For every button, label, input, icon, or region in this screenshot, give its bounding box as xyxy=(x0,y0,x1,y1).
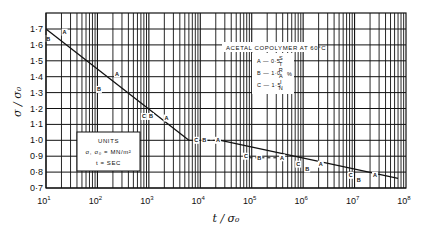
data-marker-a: A xyxy=(319,161,323,167)
legend-title: ACETAL COPOLYMER AT 60°C xyxy=(226,45,326,51)
legend-unit: % xyxy=(287,71,292,77)
y-tick-label: 1·3 xyxy=(30,88,43,98)
x-tick-label: 107 xyxy=(346,195,360,206)
units-stress: σ, σ₀ = MN/m² xyxy=(86,149,132,155)
data-marker-c: C xyxy=(349,172,353,178)
y-tick-label: 1·5 xyxy=(30,56,43,66)
y-tick-label: 1·2 xyxy=(30,104,43,114)
units-time: t = SEC xyxy=(96,160,121,166)
creep-master-curve-chart: AAAAAAABBBBBBBCCCCC 1·71·61·51·41·31·21·… xyxy=(0,0,432,234)
y-tick-label: 1·0 xyxy=(30,135,43,145)
y-tick-label: 0·8 xyxy=(30,167,43,177)
y-tick-label: 1·4 xyxy=(30,72,43,82)
data-marker-a: A xyxy=(115,71,119,77)
data-marker-b: B xyxy=(202,137,206,143)
fit-line xyxy=(46,29,189,140)
legend-entry-c: C — 1·5 xyxy=(257,82,281,88)
x-tick-label: 103 xyxy=(140,195,154,206)
data-marker-c: C xyxy=(296,161,300,167)
units-annotation: UNITS σ, σ₀ = MN/m² t = SEC xyxy=(77,132,140,171)
data-marker-a: A xyxy=(63,29,67,35)
y-tick-label: 0·7 xyxy=(30,183,43,193)
data-marker-b: B xyxy=(97,86,101,92)
x-tick-label: 105 xyxy=(243,195,257,206)
x-tick-labels: 101102103104105106107108 xyxy=(37,195,411,206)
data-marker-b: B xyxy=(149,113,153,119)
x-tick-label: 101 xyxy=(37,195,51,206)
legend-strain-label: STRAIN xyxy=(279,55,283,91)
x-axis-label: t / σ₀ xyxy=(212,212,240,225)
x-tick-label: 106 xyxy=(294,195,308,206)
legend-entry-a: A — 0·5 xyxy=(257,58,280,64)
x-tick-label: 108 xyxy=(397,195,411,206)
y-axis-label: σ / σ₀ xyxy=(11,86,24,117)
data-marker-a: A xyxy=(216,137,220,143)
units-title: UNITS xyxy=(98,138,119,144)
data-marker-c: C xyxy=(244,153,248,159)
x-tick-label: 102 xyxy=(89,195,103,206)
data-marker-a: A xyxy=(164,115,168,121)
data-marker-c: C xyxy=(194,137,198,143)
data-marker-c: C xyxy=(142,113,146,119)
legend: ACETAL COPOLYMER AT 60°C A — 0·5 B — 1·0… xyxy=(222,42,326,94)
x-tick-label: 104 xyxy=(192,195,206,206)
data-marker-b: B xyxy=(257,155,261,161)
strain-letter: N xyxy=(279,85,283,91)
y-tick-label: 1·6 xyxy=(30,40,43,50)
data-marker-a: A xyxy=(373,172,377,178)
data-marker-a: A xyxy=(280,155,284,161)
data-marker-b: B xyxy=(46,36,50,42)
data-marker-b: B xyxy=(305,166,309,172)
y-tick-label: 0·9 xyxy=(30,151,43,161)
y-tick-label: 1·7 xyxy=(30,24,43,34)
data-marker-b: B xyxy=(357,177,361,183)
y-tick-labels: 1·71·61·51·41·31·21·11·00·90·80·7 xyxy=(30,24,43,193)
y-tick-label: 1·1 xyxy=(30,119,43,129)
legend-entry-b: B — 1·0 xyxy=(257,70,281,76)
